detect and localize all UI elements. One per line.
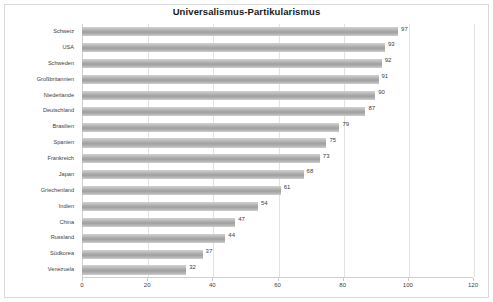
bar-row: 92 (82, 56, 473, 72)
x-axis-tick-mark (212, 278, 213, 281)
x-axis-tick-mark (147, 278, 148, 281)
bar-row: 68 (82, 167, 473, 183)
bar-row: 54 (82, 199, 473, 215)
bar-value-label: 79 (342, 121, 349, 127)
x-axis-tick-label: 120 (468, 282, 478, 288)
bar-value-label: 73 (323, 153, 330, 159)
bar (82, 138, 326, 147)
bar-row: 32 (82, 262, 473, 278)
bar-row: 93 (82, 40, 473, 56)
y-axis-tick-label: Niederlande (0, 88, 78, 104)
y-axis-tick-label: Japan (0, 167, 78, 183)
bar (82, 59, 382, 68)
bar (82, 27, 398, 36)
y-axis-tick-label: Venezuela (0, 262, 78, 278)
bar-row: 97 (82, 24, 473, 40)
bar-value-label: 90 (378, 89, 385, 95)
bar-value-label: 87 (368, 105, 375, 111)
chart-container: Universalismus-Partikularismus SchweizUS… (0, 0, 493, 302)
bar-row: 73 (82, 151, 473, 167)
y-axis-tick-label: Brasilien (0, 119, 78, 135)
y-axis-tick-label: Frankreich (0, 151, 78, 167)
y-axis-tick-label: Südkorea (0, 246, 78, 262)
bar-value-label: 32 (189, 264, 196, 270)
x-axis-tick-label: 80 (339, 282, 346, 288)
bar-row: 61 (82, 183, 473, 199)
bar-series: 97939291908779757368615447443732 (82, 24, 473, 278)
bar-value-label: 75 (329, 137, 336, 143)
bar (82, 75, 379, 84)
bar-row: 79 (82, 119, 473, 135)
y-axis-tick-label: Griechenland (0, 183, 78, 199)
y-axis-tick-label: Deutschland (0, 103, 78, 119)
gridline (474, 24, 475, 277)
bar-value-label: 68 (307, 168, 314, 174)
bar-row: 75 (82, 135, 473, 151)
bar (82, 123, 339, 132)
x-axis-tick-mark (473, 278, 474, 281)
bar-row: 90 (82, 88, 473, 104)
bar-value-label: 44 (228, 232, 235, 238)
bar-row: 44 (82, 230, 473, 246)
x-axis-tick-label: 60 (274, 282, 281, 288)
x-axis-tick-label: 20 (144, 282, 151, 288)
y-axis-tick-label: Indien (0, 199, 78, 215)
y-axis-tick-label: Schweden (0, 56, 78, 72)
bar-value-label: 47 (238, 216, 245, 222)
chart-title: Universalismus-Partikularismus (0, 6, 493, 17)
bar (82, 265, 186, 274)
y-axis-tick-label: USA (0, 40, 78, 56)
x-axis-tick-label: 100 (403, 282, 413, 288)
y-axis-tick-label: Großbritannien (0, 72, 78, 88)
bar (82, 250, 203, 259)
bar-value-label: 61 (284, 184, 291, 190)
y-axis-tick-label: Schweiz (0, 24, 78, 40)
y-axis-category-labels: SchweizUSASchwedenGroßbritannienNiederla… (0, 24, 78, 278)
bar-row: 37 (82, 246, 473, 262)
x-axis-tick-mark (82, 278, 83, 281)
y-axis-tick-label: China (0, 215, 78, 231)
bar-value-label: 92 (385, 57, 392, 63)
bar (82, 107, 365, 116)
bar (82, 218, 235, 227)
x-axis-tick-label: 40 (209, 282, 216, 288)
bar (82, 91, 375, 100)
x-axis-tick-label: 0 (80, 282, 83, 288)
y-axis-tick-label: Russland (0, 230, 78, 246)
bar-value-label: 37 (206, 248, 213, 254)
bar (82, 202, 258, 211)
x-axis-tick-mark (343, 278, 344, 281)
bar-value-label: 91 (382, 73, 389, 79)
bar (82, 186, 281, 195)
bar (82, 154, 320, 163)
bar (82, 170, 304, 179)
bar-value-label: 54 (261, 200, 268, 206)
bar (82, 43, 385, 52)
bar-row: 47 (82, 215, 473, 231)
bar-value-label: 97 (401, 26, 408, 32)
bar (82, 234, 225, 243)
x-axis-tick-mark (278, 278, 279, 281)
bar-row: 87 (82, 103, 473, 119)
y-axis-tick-label: Spanien (0, 135, 78, 151)
bar-value-label: 93 (388, 41, 395, 47)
bar-row: 91 (82, 72, 473, 88)
x-axis-tick-mark (408, 278, 409, 281)
